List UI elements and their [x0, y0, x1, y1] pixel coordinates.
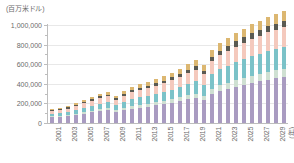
x-tick-label: 2023: [231, 127, 238, 141]
bar-segment: [226, 51, 231, 66]
bar-segment: [266, 51, 271, 72]
x-tick-label: 2011: [135, 127, 142, 141]
bar-segment: [266, 72, 271, 80]
bar-segment: [234, 47, 239, 63]
x-tick-label: 2017: [183, 127, 190, 141]
bar: [98, 94, 103, 123]
bar-segment: [282, 47, 287, 69]
bar-segment: [170, 103, 175, 123]
bar-segment: [242, 59, 247, 78]
bar-segment: [250, 56, 255, 76]
bar-segment: [162, 83, 167, 92]
bar-segment: [210, 94, 215, 123]
bar-segment: [274, 70, 279, 78]
x-tick-label: 2015: [167, 127, 174, 141]
bar-segment: [66, 116, 71, 123]
bar: [74, 103, 79, 123]
x-tick-label: 2029: [279, 127, 286, 141]
x-tick-label: 2009: [119, 127, 126, 141]
bar: [138, 84, 143, 123]
bar: [194, 60, 199, 123]
bar: [66, 106, 71, 123]
bar-segment: [226, 38, 231, 46]
bar-segment: [282, 69, 287, 77]
y-tick-label: 0: [38, 120, 42, 127]
bar-segment: [218, 43, 223, 50]
x-tick-label: 2003: [71, 127, 78, 141]
bar-segment: [58, 117, 63, 123]
x-tick-label: 2021: [215, 127, 222, 141]
bar-segment: [242, 85, 247, 123]
bar-segment: [282, 11, 287, 21]
y-tick-label: 200,000: [17, 100, 42, 107]
x-tick-label: 2001: [55, 127, 62, 141]
bar-segment: [202, 100, 207, 123]
bar-segment: [282, 27, 287, 46]
bar-segment: [82, 114, 87, 123]
bar-segment: [274, 49, 279, 71]
bar-segment: [186, 73, 191, 84]
bar: [258, 21, 263, 124]
bar: [274, 14, 279, 123]
bar-segment: [138, 97, 143, 104]
bar-segment: [98, 111, 103, 123]
bar-segment: [258, 21, 263, 30]
bar: [226, 38, 231, 123]
bar-segment: [202, 85, 207, 96]
bar-segment: [266, 17, 271, 27]
bar-segment: [210, 50, 215, 57]
bar-segment: [250, 24, 255, 33]
y-tick-label: 800,000: [17, 41, 42, 48]
bar: [170, 73, 175, 123]
bar: [130, 87, 135, 123]
bar-segment: [258, 74, 263, 81]
bar-segment: [122, 110, 127, 123]
bar-segment: [170, 90, 175, 100]
bar: [82, 100, 87, 123]
bar-segment: [146, 107, 151, 123]
y-axis-unit-label: (百万米ドル): [6, 3, 44, 13]
bar-segment: [194, 81, 199, 93]
bar-segment: [202, 74, 207, 85]
bar-segment: [114, 112, 119, 123]
bar-segment: [106, 110, 111, 123]
bar-segment: [218, 91, 223, 123]
bar: [266, 17, 271, 123]
bar-segment: [154, 86, 159, 94]
plot-area: [48, 25, 288, 123]
bar: [50, 109, 55, 123]
bar: [122, 91, 127, 123]
bar-segment: [154, 105, 159, 123]
bar-segment: [162, 104, 167, 123]
bar: [218, 43, 223, 123]
x-tick-label: 2013: [151, 127, 158, 141]
bar: [58, 108, 63, 123]
bar: [146, 82, 151, 123]
bar-segment: [250, 39, 255, 56]
bar-segment: [178, 77, 183, 87]
bar-segment: [242, 78, 247, 85]
bar-segment: [138, 108, 143, 123]
bar-segment: [226, 89, 231, 123]
bar: [114, 96, 119, 123]
bar-segment: [234, 87, 239, 123]
bar-segment: [50, 117, 55, 123]
bar-segment: [234, 62, 239, 80]
bar: [250, 24, 255, 123]
gridline: [48, 123, 288, 124]
bar-segment: [130, 99, 135, 106]
bar: [282, 11, 287, 123]
x-tick-label: 2027: [263, 127, 270, 141]
x-tick-label: 2025: [247, 127, 254, 141]
bar-segment: [266, 80, 271, 124]
bar-segment: [242, 29, 247, 38]
bar-segment: [258, 81, 263, 123]
bar-segment: [74, 115, 79, 123]
bar-segment: [146, 96, 151, 104]
bar-segment: [258, 36, 263, 54]
bar-segment: [258, 54, 263, 74]
bar-segment: [250, 83, 255, 123]
x-tick-label: 2005: [87, 127, 94, 141]
bar: [186, 64, 191, 123]
bar: [210, 50, 215, 123]
